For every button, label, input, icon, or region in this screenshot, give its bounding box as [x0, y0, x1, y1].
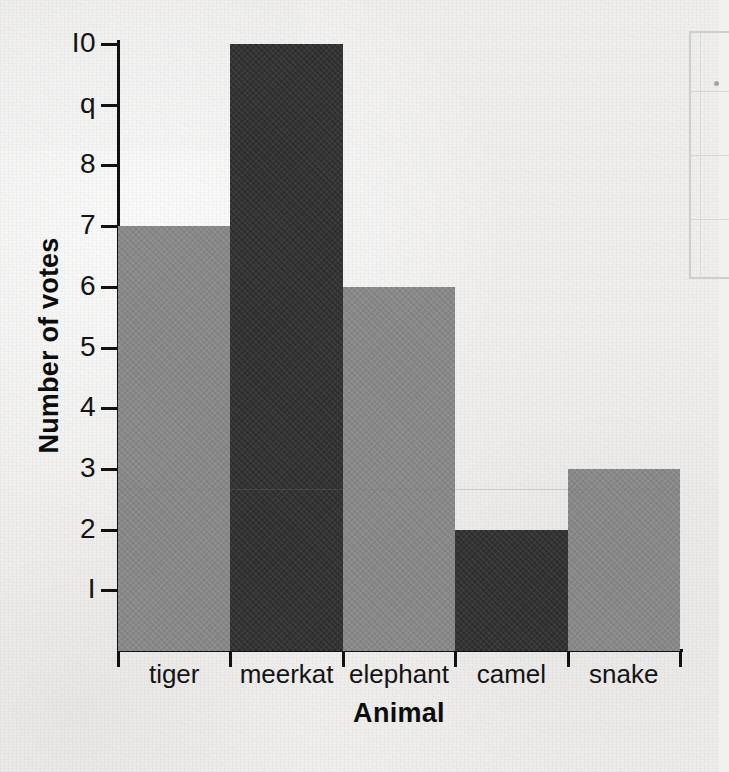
y-tick-label-2: 2 [56, 515, 96, 543]
x-label-snake: snake [568, 660, 680, 689]
bar-elephant [343, 287, 455, 651]
bar-snake [568, 469, 680, 651]
x-label-camel: camel [455, 660, 567, 689]
y-tick-9 [101, 104, 118, 107]
y-tick-6 [101, 286, 118, 289]
y-tick-label-9: q [56, 90, 96, 118]
bar-meerkat [230, 44, 342, 651]
y-tick-8 [101, 164, 118, 167]
y-tick-5 [101, 347, 118, 350]
y-tick-label-8: 8 [56, 150, 96, 178]
y-tick-3 [101, 468, 118, 471]
y-tick-2 [101, 529, 118, 532]
y-tick-7 [101, 225, 118, 228]
bar-camel [455, 530, 567, 651]
y-tick-label-1: I [56, 575, 96, 603]
x-label-elephant: elephant [343, 660, 455, 689]
y-tick-label-10: I0 [56, 29, 96, 57]
x-label-tiger: tiger [118, 660, 230, 689]
y-tick-10 [101, 43, 118, 46]
y-axis-title: Number of votes [34, 231, 65, 461]
y-tick-4 [101, 407, 118, 410]
y-tick-1 [101, 589, 118, 592]
plot-area [118, 44, 680, 651]
x-axis-title: Animal [118, 698, 680, 729]
bar-tiger [118, 226, 230, 651]
x-label-meerkat: meerkat [230, 660, 342, 689]
